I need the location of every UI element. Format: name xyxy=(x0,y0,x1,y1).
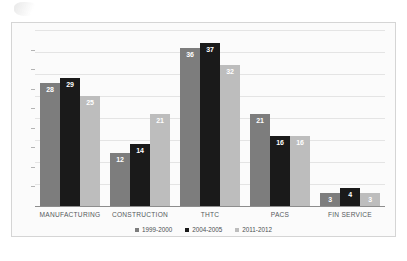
category-group: 211616 xyxy=(245,31,315,206)
legend-item[interactable]: 1999-2000 xyxy=(135,226,172,233)
bar-chart-figure: 282925121421363732211616343 MANUFACTURIN… xyxy=(11,22,396,237)
bar[interactable]: 12 xyxy=(110,153,130,206)
bar[interactable]: 14 xyxy=(130,144,150,206)
bar-value-label: 3 xyxy=(328,196,332,203)
bar[interactable]: 28 xyxy=(40,83,60,206)
bar-value-label: 37 xyxy=(206,46,213,53)
bar[interactable]: 37 xyxy=(200,43,220,206)
bar-value-label: 16 xyxy=(276,139,283,146)
bar[interactable]: 3 xyxy=(360,193,380,206)
bar[interactable]: 16 xyxy=(270,136,290,206)
legend-label: 2011-2012 xyxy=(242,226,272,233)
bar[interactable]: 21 xyxy=(150,114,170,206)
bar[interactable]: 36 xyxy=(180,48,200,206)
bars-layer: 282925121421363732211616343 xyxy=(35,31,385,206)
legend-swatch-icon xyxy=(185,228,189,232)
bar-value-label: 28 xyxy=(46,86,53,93)
bar-value-label: 25 xyxy=(86,99,93,106)
bar[interactable]: 16 xyxy=(290,136,310,206)
bar-value-label: 3 xyxy=(368,196,372,203)
category-label: MANUFACTURING xyxy=(35,211,105,218)
legend-label: 1999-2000 xyxy=(142,226,172,233)
bar[interactable]: 4 xyxy=(340,188,360,206)
bar[interactable]: 3 xyxy=(320,193,340,206)
bar-value-label: 14 xyxy=(136,147,143,154)
bar[interactable]: 25 xyxy=(80,96,100,206)
chart-legend: 1999-20002004-20052011-2012 xyxy=(12,226,395,233)
legend-swatch-icon xyxy=(135,228,139,232)
category-group: 121421 xyxy=(105,31,175,206)
bar-value-label: 4 xyxy=(348,191,352,198)
bar[interactable]: 32 xyxy=(220,65,240,206)
legend-item[interactable]: 2011-2012 xyxy=(235,226,272,233)
axis-baseline xyxy=(35,206,385,207)
bar-value-label: 29 xyxy=(66,81,73,88)
bar-value-label: 36 xyxy=(186,51,193,58)
legend-label: 2004-2005 xyxy=(192,226,222,233)
plot-area: 282925121421363732211616343 xyxy=(35,31,385,207)
category-group: 363732 xyxy=(175,31,245,206)
legend-item[interactable]: 2004-2005 xyxy=(185,226,222,233)
bar[interactable]: 29 xyxy=(60,78,80,206)
bar-value-label: 32 xyxy=(226,68,233,75)
bar-value-label: 21 xyxy=(156,117,163,124)
category-label: PACS xyxy=(245,211,315,218)
category-group: 282925 xyxy=(35,31,105,206)
scan-artifact xyxy=(14,2,40,16)
legend-swatch-icon xyxy=(235,228,239,232)
bar-value-label: 12 xyxy=(116,156,123,163)
category-label: FIN SERVICE xyxy=(315,211,385,218)
category-label: THTC xyxy=(175,211,245,218)
category-label: CONSTRUCTION xyxy=(105,211,175,218)
bar-value-label: 21 xyxy=(256,117,263,124)
category-axis-labels: MANUFACTURINGCONSTRUCTIONTHTCPACSFIN SER… xyxy=(35,211,385,218)
bar[interactable]: 21 xyxy=(250,114,270,206)
category-group: 343 xyxy=(315,31,385,206)
bar-value-label: 16 xyxy=(296,139,303,146)
